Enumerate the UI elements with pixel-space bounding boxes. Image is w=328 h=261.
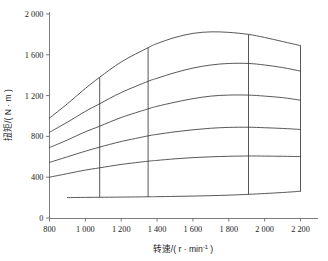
- y-tick-label: 0: [39, 214, 43, 223]
- y-tick-label: 400: [31, 173, 43, 182]
- x-tick-label: 1 000: [76, 225, 95, 234]
- x-tick-label: 1 600: [184, 225, 203, 234]
- chart-canvas: 04008001 2001 6002 000 8001 0001 2001 40…: [0, 0, 328, 261]
- x-tick-label: 1 800: [219, 225, 238, 234]
- y-tick-label: 1 600: [25, 51, 44, 60]
- y-tick-label: 2 000: [25, 10, 44, 19]
- x-tick-label: 1 200: [112, 225, 131, 234]
- x-tick-label: 1 400: [148, 225, 167, 234]
- engine-performance-chart: 04008001 2001 6002 000 8001 0001 2001 40…: [0, 0, 328, 261]
- x-tick-label: 2 000: [255, 225, 274, 234]
- y-tick-label: 1 200: [25, 92, 44, 101]
- x-tick-label: 800: [43, 225, 55, 234]
- x-tick-label: 2 200: [291, 225, 310, 234]
- y-axis-label: 扭矩/( N · m ): [2, 89, 13, 141]
- y-tick-label: 800: [31, 132, 43, 141]
